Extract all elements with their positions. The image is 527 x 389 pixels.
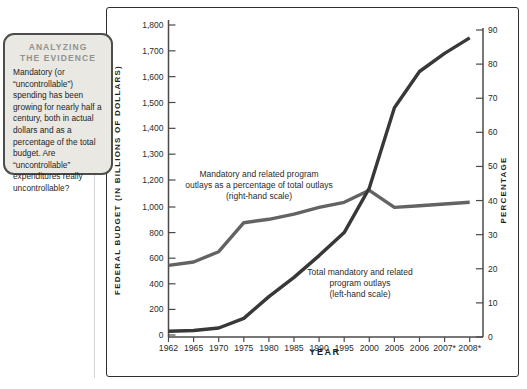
callout-body-text: Mandatory (or “uncontrollable”) spending… xyxy=(13,67,103,195)
left-axis-tick-label: 800 xyxy=(149,228,163,238)
right-axis-tick-label: 20 xyxy=(488,264,498,274)
annotation-percentage-line: Mandatory and related program outlays as… xyxy=(166,169,352,201)
right-axis-tick-label: 70 xyxy=(488,93,498,103)
x-axis-tick-label: 1965 xyxy=(184,343,203,353)
x-axis-tick-label: 1970 xyxy=(209,343,228,353)
left-axis-tick-label: 1,400 xyxy=(142,123,164,133)
left-axis-tick-label: 200 xyxy=(149,304,163,314)
left-axis-tick-label: 1,600 xyxy=(142,72,164,82)
right-axis-tick-label: 60 xyxy=(488,127,498,137)
textbook-figure: { "sidebar": { "title_line1": "ANALYZING… xyxy=(0,0,527,389)
left-axis-tick-label: 1,200 xyxy=(142,175,164,185)
right-axis-tick-label: 10 xyxy=(488,298,498,308)
x-axis-tick-label: 1975 xyxy=(234,343,253,353)
x-axis-tick-label: 2008* xyxy=(458,343,481,353)
left-axis-tick-label: 1,800 xyxy=(142,20,164,30)
left-axis-tick-label: 600 xyxy=(149,253,163,263)
left-axis-tick-label: 1,500 xyxy=(142,98,164,108)
left-axis-tick-label: 1,000 xyxy=(142,202,164,212)
right-axis-title: PERCENTAGE xyxy=(499,145,515,235)
right-axis-tick-label: 40 xyxy=(488,196,498,206)
x-axis-tick-label: 1980 xyxy=(259,343,278,353)
x-axis-tick-label: 2006 xyxy=(410,343,429,353)
x-axis-title: YEAR xyxy=(285,347,365,357)
callout-title: ANALYZING THE EVIDENCE xyxy=(13,42,103,63)
right-axis-tick-label: 0 xyxy=(488,332,493,342)
left-axis-tick-label: 400 xyxy=(149,279,163,289)
left-axis-tick-label: 0 xyxy=(159,330,164,340)
left-axis-tick-label: 1,300 xyxy=(142,149,164,159)
right-axis-tick-label: 90 xyxy=(488,25,498,35)
annotation-dollars-line: Total mandatory and related program outl… xyxy=(275,267,445,299)
analyzing-evidence-callout: ANALYZING THE EVIDENCE Mandatory (or “un… xyxy=(3,33,113,175)
right-axis-tick-label: 80 xyxy=(488,59,498,69)
right-axis-tick-label: 30 xyxy=(488,230,498,240)
callout-title-line1: ANALYZING xyxy=(29,42,88,52)
left-axis-title: FEDERAL BUDGET (IN BILLIONS OF DOLLARS) xyxy=(113,50,129,310)
x-axis-tick-label: 2005 xyxy=(385,343,404,353)
x-axis-tick-label: 2007* xyxy=(433,343,456,353)
x-axis-tick-label: 1962 xyxy=(159,343,178,353)
callout-title-line2: THE EVIDENCE xyxy=(20,53,96,63)
left-axis-tick-label: 1,700 xyxy=(142,46,164,56)
right-axis-tick-label: 50 xyxy=(488,161,498,171)
